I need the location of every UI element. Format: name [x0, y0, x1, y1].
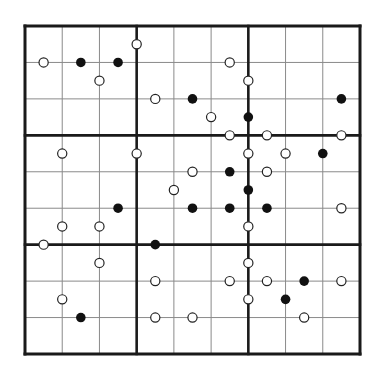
black-circle-icon: [262, 203, 272, 213]
white-circle-icon: [151, 277, 160, 286]
puzzle-board[interactable]: [0, 0, 377, 376]
puzzle-circles: [39, 40, 346, 323]
white-circle-icon: [281, 149, 290, 158]
black-circle-icon: [318, 149, 328, 159]
white-circle-icon: [169, 185, 178, 194]
white-circle-icon: [337, 131, 346, 140]
white-circle-icon: [262, 131, 271, 140]
black-circle-icon: [225, 203, 235, 213]
white-circle-icon: [244, 222, 253, 231]
black-circle-icon: [244, 112, 254, 122]
grid-thin-lines: [25, 26, 360, 354]
white-circle-icon: [95, 222, 104, 231]
white-circle-icon: [225, 131, 234, 140]
white-circle-icon: [262, 167, 271, 176]
white-circle-icon: [244, 295, 253, 304]
black-circle-icon: [76, 313, 86, 323]
black-circle-icon: [337, 94, 347, 104]
white-circle-icon: [262, 277, 271, 286]
black-circle-icon: [113, 203, 123, 213]
black-circle-icon: [113, 58, 123, 68]
black-circle-icon: [225, 167, 235, 177]
white-circle-icon: [39, 58, 48, 67]
white-circle-icon: [337, 277, 346, 286]
white-circle-icon: [225, 58, 234, 67]
white-circle-icon: [151, 313, 160, 322]
white-circle-icon: [244, 149, 253, 158]
white-circle-icon: [300, 313, 309, 322]
grid-thick-lines: [25, 26, 360, 354]
white-circle-icon: [132, 149, 141, 158]
white-circle-icon: [58, 222, 67, 231]
white-circle-icon: [58, 295, 67, 304]
white-circle-icon: [132, 40, 141, 49]
white-circle-icon: [244, 76, 253, 85]
white-circle-icon: [207, 113, 216, 122]
black-circle-icon: [299, 276, 309, 286]
black-circle-icon: [281, 295, 291, 305]
white-circle-icon: [244, 258, 253, 267]
black-circle-icon: [150, 240, 160, 250]
white-circle-icon: [95, 76, 104, 85]
white-circle-icon: [58, 149, 67, 158]
black-circle-icon: [76, 58, 86, 68]
black-circle-icon: [188, 203, 198, 213]
black-circle-icon: [188, 94, 198, 104]
white-circle-icon: [225, 277, 234, 286]
white-circle-icon: [95, 258, 104, 267]
white-circle-icon: [151, 94, 160, 103]
white-circle-icon: [188, 167, 197, 176]
white-circle-icon: [39, 240, 48, 249]
white-circle-icon: [337, 204, 346, 213]
white-circle-icon: [188, 313, 197, 322]
black-circle-icon: [244, 185, 254, 195]
